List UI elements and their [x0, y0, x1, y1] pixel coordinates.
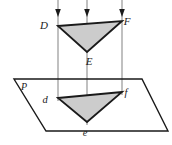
vertex-label-d: d	[42, 94, 48, 105]
figure-canvas: D F E d f e P	[0, 0, 172, 145]
triangle-DEF	[58, 21, 122, 52]
plane-label-P: P	[20, 81, 27, 92]
arrow-down-icon-e	[84, 9, 90, 17]
vertex-label-F: F	[123, 15, 131, 27]
geometry-figure: D F E d f e P	[0, 0, 172, 145]
vertex-label-D: D	[39, 19, 48, 31]
vertex-label-e: e	[83, 127, 88, 138]
arrow-down-icon-d	[55, 9, 61, 17]
vertex-label-f: f	[125, 87, 130, 98]
vertex-label-E: E	[85, 55, 93, 67]
triangle-def	[58, 92, 122, 122]
projection-arrowheads-group	[55, 9, 125, 17]
